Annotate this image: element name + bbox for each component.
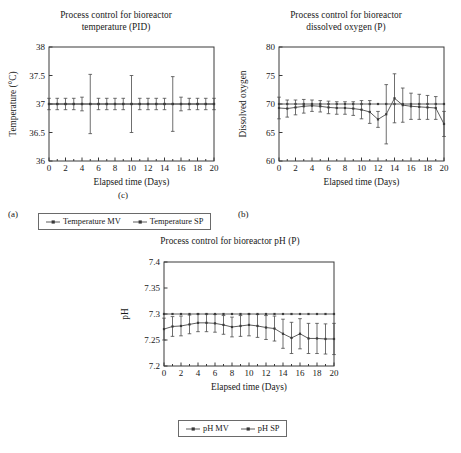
data-point xyxy=(410,105,412,107)
data-point xyxy=(273,312,275,314)
data-point xyxy=(248,323,250,325)
data-point xyxy=(163,327,165,329)
data-point xyxy=(188,323,190,325)
data-point xyxy=(333,337,335,339)
legend-label: Temperature MV xyxy=(63,217,121,226)
data-point xyxy=(256,312,258,314)
temperature-legend: Temperature MVTemperature SP xyxy=(38,213,211,230)
x-tick-label: 6 xyxy=(326,163,331,173)
x-tick-label: 0 xyxy=(277,163,282,173)
y-tick-label: 7.2 xyxy=(149,361,160,371)
data-point xyxy=(352,107,354,109)
data-point xyxy=(89,103,91,105)
x-axis-label: Elapsed time (Days) xyxy=(211,382,287,393)
data-point xyxy=(426,106,428,108)
data-point xyxy=(303,105,305,107)
temperature-chart-svg: 024681012141618203636.53737.538Elapsed t… xyxy=(2,33,230,213)
data-point xyxy=(171,312,173,314)
data-point xyxy=(443,103,445,105)
x-tick-label: 8 xyxy=(343,163,348,173)
x-tick-label: 14 xyxy=(390,163,400,173)
x-tick-label: 16 xyxy=(407,163,417,173)
data-point xyxy=(97,103,99,105)
data-point xyxy=(180,324,182,326)
x-tick-label: 10 xyxy=(127,163,137,173)
y-tick-label: 37.5 xyxy=(29,71,45,81)
x-tick-label: 20 xyxy=(330,368,340,378)
data-point xyxy=(147,103,149,105)
legend-item: pH SP xyxy=(241,424,280,433)
data-point xyxy=(163,312,165,314)
data-point xyxy=(197,321,199,323)
data-point xyxy=(265,326,267,328)
line-marker-icon xyxy=(46,218,60,226)
data-point xyxy=(278,107,280,109)
data-point xyxy=(256,324,258,326)
data-point xyxy=(231,312,233,314)
y-tick-label: 36.5 xyxy=(29,128,45,138)
data-point xyxy=(265,312,267,314)
data-point xyxy=(197,312,199,314)
data-point xyxy=(299,312,301,314)
x-tick-label: 2 xyxy=(63,163,68,173)
data-point xyxy=(122,103,124,105)
data-point xyxy=(188,312,190,314)
data-point xyxy=(299,332,301,334)
x-tick-label: 18 xyxy=(423,163,433,173)
data-point xyxy=(360,109,362,111)
data-point xyxy=(172,103,174,105)
data-point xyxy=(377,103,379,105)
y-tick-label: 80 xyxy=(266,42,276,52)
data-point xyxy=(248,312,250,314)
figure-container: Process control for bioreactor temperatu… xyxy=(0,0,461,453)
data-point xyxy=(171,325,173,327)
panel-dissolved-oxygen: Process control for bioreactor dissolved… xyxy=(232,10,460,235)
legend-label: pH MV xyxy=(203,424,229,433)
data-point xyxy=(418,106,420,108)
x-tick-label: 18 xyxy=(313,368,323,378)
y-tick-label: 60 xyxy=(266,156,276,166)
x-tick-label: 0 xyxy=(47,163,52,173)
y-axis-label: Dissolved oxygen xyxy=(238,70,248,137)
data-point xyxy=(163,103,165,105)
data-point xyxy=(239,324,241,326)
legend-label: Temperature SP xyxy=(150,217,204,226)
series-2 xyxy=(277,74,446,144)
panel-temperature: Process control for bioreactor temperatu… xyxy=(2,10,230,235)
ph-plot: 024681012141618207.27.257.37.357.4Elapse… xyxy=(112,248,348,418)
x-axis-label: Elapsed time (Days) xyxy=(324,177,400,188)
y-tick-label: 70 xyxy=(266,99,276,109)
data-point xyxy=(73,103,75,105)
x-tick-label: 8 xyxy=(113,163,118,173)
ph-legend: pH MVpH SP xyxy=(178,420,287,437)
x-tick-label: 14 xyxy=(279,368,289,378)
data-point xyxy=(307,337,309,339)
data-point xyxy=(311,105,313,107)
panel-c-letter: (c) xyxy=(118,190,128,200)
y-tick-label: 75 xyxy=(266,71,276,81)
x-tick-label: 10 xyxy=(357,163,367,173)
data-point xyxy=(344,107,346,109)
data-point xyxy=(290,336,292,338)
x-axis-label: Elapsed time (Days) xyxy=(94,177,170,188)
data-point xyxy=(231,325,233,327)
data-point xyxy=(180,103,182,105)
data-point xyxy=(402,104,404,106)
data-point xyxy=(180,312,182,314)
y-axis-label: Temperature (°C) xyxy=(8,71,19,136)
panel-b-letter: (b) xyxy=(238,209,249,219)
y-tick-label: 7.3 xyxy=(149,309,161,319)
x-tick-label: 20 xyxy=(440,163,450,173)
dissolved-oxygen-plot: 024681012141618206065707580Elapsed time … xyxy=(232,33,460,213)
panel-c-title: Process control for bioreactor pH (P) xyxy=(112,236,348,248)
data-point xyxy=(307,312,309,314)
data-point xyxy=(222,312,224,314)
data-point xyxy=(333,312,335,314)
temperature-plot: 024681012141618203636.53737.538Elapsed t… xyxy=(2,33,230,213)
dissolved-oxygen-chart-svg: 024681012141618206065707580Elapsed time … xyxy=(232,33,460,213)
data-point xyxy=(294,106,296,108)
data-point xyxy=(48,103,50,105)
x-tick-label: 20 xyxy=(210,163,220,173)
x-tick-label: 8 xyxy=(230,368,235,378)
data-point xyxy=(385,113,387,115)
